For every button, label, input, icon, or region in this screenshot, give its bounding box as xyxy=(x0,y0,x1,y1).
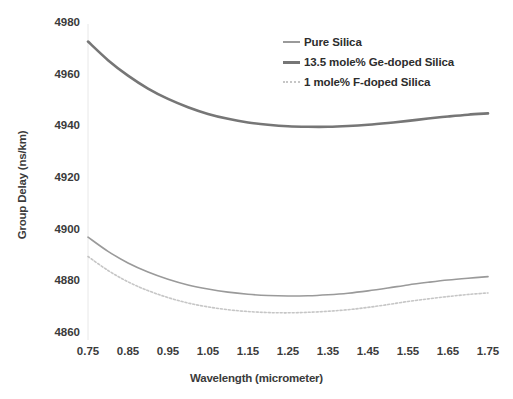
legend-item[interactable]: 13.5 mole% Ge-doped Silica xyxy=(283,52,508,72)
legend-item-label: 13.5 mole% Ge-doped Silica xyxy=(304,56,454,68)
legend-line-icon xyxy=(283,81,300,83)
legend-line-icon xyxy=(283,61,300,64)
legend: Pure Silica13.5 mole% Ge-doped Silica1 m… xyxy=(283,32,508,92)
legend-item-label: Pure Silica xyxy=(304,36,362,48)
legend-line-icon xyxy=(283,41,300,43)
group-delay-chart: Group Delay (ns/km) Wavelength (micromet… xyxy=(0,0,513,399)
legend-item-label: 1 mole% F-doped Silica xyxy=(304,76,430,88)
legend-item[interactable]: Pure Silica xyxy=(283,32,508,52)
series-line xyxy=(88,237,488,296)
legend-item[interactable]: 1 mole% F-doped Silica xyxy=(283,72,508,92)
series-line xyxy=(88,257,488,313)
